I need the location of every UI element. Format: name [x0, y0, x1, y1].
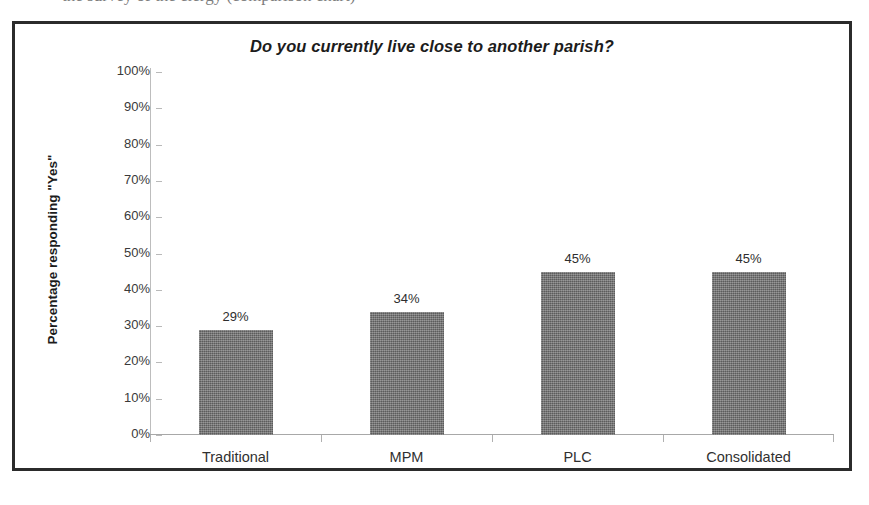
y-axis-tick-label: 10%: [124, 390, 150, 405]
y-axis-tick-mark: [156, 435, 162, 436]
bar-group-mpm: 34% MPM: [321, 72, 492, 435]
y-axis-tick-label: 0%: [131, 426, 150, 441]
bar-value-label: 45%: [564, 251, 590, 266]
bar-group-traditional: 29% Traditional: [150, 72, 321, 435]
bar-group-plc: 45% PLC: [492, 72, 663, 435]
bar-consolidated[interactable]: [712, 272, 786, 435]
bar-plc[interactable]: [541, 272, 615, 435]
x-axis-separator: [833, 435, 834, 442]
y-axis-tick-label: 60%: [124, 208, 150, 223]
bar-traditional[interactable]: [199, 330, 273, 435]
x-axis-category-label: Traditional: [202, 449, 269, 465]
x-axis-separator: [321, 435, 322, 442]
y-axis-tick-label: 30%: [124, 317, 150, 332]
y-axis-tick-label: 70%: [124, 172, 150, 187]
cut-off-document-text-line: the survey of the clergy (comparison cha…: [62, 0, 355, 6]
bar-value-label: 34%: [393, 291, 419, 306]
x-axis-category-label: PLC: [563, 449, 591, 465]
chart-container: Do you currently live close to another p…: [12, 21, 852, 471]
y-axis-label: Percentage responding "Yes": [45, 150, 60, 350]
bar-value-label: 29%: [222, 309, 248, 324]
x-axis-separator: [150, 435, 151, 442]
x-axis-separator: [492, 435, 493, 442]
y-axis-tick-label: 20%: [124, 353, 150, 368]
y-axis-tick-label: 50%: [124, 245, 150, 260]
chart-title: Do you currently live close to another p…: [15, 37, 849, 56]
x-axis-category-label: MPM: [390, 449, 424, 465]
bar-mpm[interactable]: [370, 312, 444, 435]
cut-off-document-text: the survey of the clergy (comparison cha…: [0, 0, 869, 14]
y-axis-tick-label: 90%: [124, 99, 150, 114]
x-axis-category-label: Consolidated: [706, 449, 791, 465]
y-axis-tick-label: 80%: [124, 136, 150, 151]
y-axis-tick-label: 40%: [124, 281, 150, 296]
plot-area: 100% 90% 80% 70% 60% 50% 40% 30%: [150, 72, 834, 435]
y-axis-tick-label: 100%: [117, 63, 150, 78]
bar-group-consolidated: 45% Consolidated: [663, 72, 834, 435]
x-axis-separator: [663, 435, 664, 442]
bar-value-label: 45%: [735, 251, 761, 266]
